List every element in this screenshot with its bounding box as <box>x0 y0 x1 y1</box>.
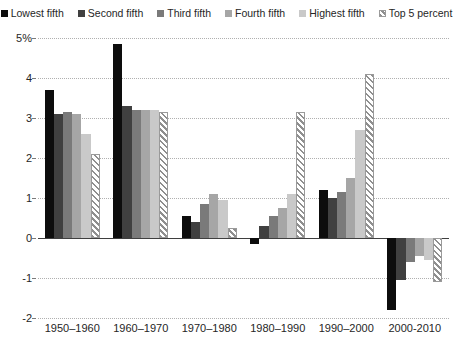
y-axis-tick-label: -2 <box>22 313 32 324</box>
legend-label: Top 5 percent <box>389 8 453 19</box>
bar[interactable] <box>433 238 442 282</box>
bar[interactable] <box>250 238 259 244</box>
y-axis-tick-mark <box>32 278 36 279</box>
legend-item-highest-fifth[interactable]: Highest fifth <box>299 8 364 19</box>
bar[interactable] <box>141 110 150 238</box>
bar[interactable] <box>269 216 278 238</box>
bar[interactable] <box>72 114 81 238</box>
x-axis-tick-label: 1980–1990 <box>250 322 305 335</box>
x-axis-tick-label: 1950–1960 <box>45 322 100 335</box>
bar-chart: Lowest fifthSecond fifthThird fifthFourt… <box>0 0 453 347</box>
bar[interactable] <box>45 90 54 238</box>
bar[interactable] <box>200 204 209 238</box>
bar[interactable] <box>387 238 396 310</box>
legend-label: Fourth fifth <box>235 8 285 19</box>
y-axis-tick-mark <box>32 78 36 79</box>
bar[interactable] <box>365 74 374 238</box>
legend-swatch-icon <box>225 10 232 17</box>
y-axis-tick-mark <box>32 238 36 239</box>
x-axis-tick-label: 1970–1980 <box>182 322 237 335</box>
y-axis-tick-mark <box>32 158 36 159</box>
bar[interactable] <box>278 208 287 238</box>
y-axis-tick-mark <box>32 118 36 119</box>
bar-group <box>175 38 244 318</box>
bar[interactable] <box>209 194 218 238</box>
bar[interactable] <box>132 110 141 238</box>
bar[interactable] <box>91 154 100 238</box>
y-axis-tick-label: -1 <box>22 273 32 284</box>
bar[interactable] <box>406 238 415 262</box>
bar[interactable] <box>218 200 227 238</box>
x-axis: 1950–19601960–19701970–19801980–19901990… <box>38 322 449 340</box>
bar[interactable] <box>396 238 405 280</box>
legend-swatch-icon <box>299 10 306 17</box>
bar[interactable] <box>296 112 305 238</box>
bar[interactable] <box>113 44 122 238</box>
y-axis-tick-mark <box>32 198 36 199</box>
bar[interactable] <box>355 130 364 238</box>
bar[interactable] <box>228 228 237 238</box>
bar-group <box>38 38 107 318</box>
legend-swatch-icon <box>379 10 386 17</box>
legend-label: Lowest fifth <box>11 8 64 19</box>
legend-swatch-icon <box>157 10 164 17</box>
y-axis-tick-label: 5% <box>16 33 32 44</box>
bar[interactable] <box>346 178 355 238</box>
bar[interactable] <box>81 134 90 238</box>
x-axis-tick-label: 1960–1970 <box>113 322 168 335</box>
y-axis-tick-mark <box>32 38 36 39</box>
bar[interactable] <box>191 222 200 238</box>
legend-label: Highest fifth <box>309 8 364 19</box>
bar[interactable] <box>159 112 168 238</box>
legend-label: Second fifth <box>88 8 143 19</box>
bar-group <box>244 38 313 318</box>
legend-item-second-fifth[interactable]: Second fifth <box>78 8 143 19</box>
bar-group <box>381 38 450 318</box>
bar[interactable] <box>150 110 159 238</box>
legend-swatch-icon <box>1 10 8 17</box>
bar[interactable] <box>63 112 72 238</box>
legend-swatch-icon <box>78 10 85 17</box>
bar-group <box>312 38 381 318</box>
bar[interactable] <box>424 238 433 260</box>
bar[interactable] <box>319 190 328 238</box>
x-axis-tick-label: 1990–2000 <box>319 322 374 335</box>
legend-item-lowest-fifth[interactable]: Lowest fifth <box>1 8 64 19</box>
bar[interactable] <box>328 198 337 238</box>
bar[interactable] <box>54 114 63 238</box>
bar-groups <box>38 38 449 318</box>
y-axis-tick-mark <box>32 318 36 319</box>
bar-group <box>107 38 176 318</box>
bar[interactable] <box>287 194 296 238</box>
chart-legend: Lowest fifthSecond fifthThird fifthFourt… <box>0 4 453 22</box>
bar[interactable] <box>182 216 191 238</box>
bar[interactable] <box>122 106 131 238</box>
x-axis-tick-label: 2000-2010 <box>388 322 441 335</box>
gridline <box>38 318 449 319</box>
y-axis: 5%43210-1-2 <box>0 38 36 318</box>
legend-item-third-fifth[interactable]: Third fifth <box>157 8 211 19</box>
legend-label: Third fifth <box>167 8 211 19</box>
legend-item-fourth-fifth[interactable]: Fourth fifth <box>225 8 285 19</box>
bar[interactable] <box>259 226 268 238</box>
legend-item-top-5-percent[interactable]: Top 5 percent <box>379 8 453 19</box>
bar[interactable] <box>337 192 346 238</box>
plot-area <box>38 38 449 318</box>
bar[interactable] <box>415 238 424 256</box>
